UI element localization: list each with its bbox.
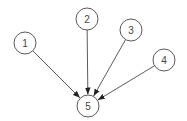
node-label: 1 <box>22 38 28 49</box>
edges-group <box>33 30 155 100</box>
node-label: 4 <box>161 55 167 66</box>
node-3: 3 <box>120 19 142 41</box>
node-4: 4 <box>153 49 175 71</box>
edge-2-to-5 <box>87 30 88 95</box>
node-1: 1 <box>14 32 36 54</box>
node-2: 2 <box>76 8 98 30</box>
node-label: 3 <box>128 25 134 36</box>
edge-1-to-5 <box>33 51 80 98</box>
node-label: 2 <box>84 14 90 25</box>
node-5: 5 <box>77 95 99 117</box>
edge-4-to-5 <box>98 66 155 100</box>
nodes-group: 12345 <box>14 8 175 117</box>
directed-graph: 12345 <box>0 0 187 121</box>
edge-3-to-5 <box>94 40 126 96</box>
node-label: 5 <box>85 101 91 112</box>
